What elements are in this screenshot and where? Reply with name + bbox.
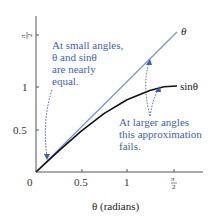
x-tick-label-05: 0.5 — [74, 176, 88, 188]
svg-text:this approximation: this approximation — [119, 128, 202, 140]
svg-text:are nearly: are nearly — [52, 63, 96, 75]
svg-text:2: 2 — [172, 183, 176, 191]
annotation-arrow-small — [45, 90, 52, 157]
x-tick-label-1: 1 — [124, 176, 130, 188]
svg-text:equal.: equal. — [52, 75, 79, 87]
svg-text:At larger angles: At larger angles — [119, 116, 189, 128]
theta-series-label: θ — [181, 25, 187, 37]
chart: 0 0.5 1 π 2 0.5 1 π 2 θ (radians) θ sinθ… — [0, 0, 218, 222]
x-tick-label-pi2: π 2 — [171, 175, 177, 191]
annotation-larger-angles: At larger angles this approximation fail… — [119, 116, 202, 152]
annotation-arrow-large-sin — [150, 90, 158, 116]
svg-text:2: 2 — [26, 33, 34, 37]
annotation-small-angles: At small angles, θ and sinθ are nearly e… — [52, 39, 123, 87]
y-tick-label-1: 1 — [22, 81, 28, 93]
svg-text:θ and sinθ: θ and sinθ — [52, 51, 97, 63]
sin-series-label: sinθ — [180, 80, 198, 92]
y-tick-label-pi2: π 2 — [19, 32, 34, 39]
svg-text:π: π — [171, 175, 175, 183]
y-tick-label-05: 0.5 — [13, 124, 27, 136]
svg-text:At small angles,: At small angles, — [52, 39, 123, 51]
svg-text:fails.: fails. — [119, 140, 141, 152]
annotation-arrow-large-theta — [146, 63, 150, 116]
x-axis-title: θ (radians) — [92, 200, 139, 213]
origin-label: 0 — [27, 176, 33, 188]
